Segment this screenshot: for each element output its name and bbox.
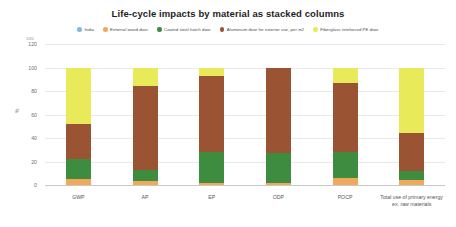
bar-segment[interactable] [333, 178, 358, 185]
legend-item[interactable]: India [77, 27, 94, 32]
x-tick-label: GWP [72, 194, 84, 201]
y-tick-label: 20 [31, 159, 37, 165]
bar-column[interactable] [199, 68, 224, 185]
bar-segment[interactable] [333, 68, 358, 83]
bar-segment[interactable] [133, 68, 158, 87]
legend-item[interactable]: Coated steel hatch door [157, 27, 211, 32]
legend-swatch-icon [103, 27, 108, 32]
legend-item[interactable]: External wood door [103, 27, 148, 32]
bar-segment[interactable] [66, 159, 91, 179]
bar-segment[interactable] [66, 68, 91, 124]
legend-swatch-icon [157, 27, 162, 32]
bar-segment[interactable] [133, 170, 158, 182]
legend-item[interactable]: Aluminium door for exterior use, per m2 [220, 27, 304, 32]
y-tick-label: 60 [31, 112, 37, 118]
bar-segment[interactable] [399, 68, 424, 134]
plot-area [45, 44, 445, 185]
x-axis-baseline [45, 185, 445, 186]
legend-swatch-icon [313, 27, 318, 32]
gridline [45, 68, 445, 69]
x-tick-label-line1: GWP [72, 194, 84, 200]
gridline [45, 138, 445, 139]
x-tick-label-line1: EP [208, 194, 215, 200]
y-axis-ticks: 020406080100120 [0, 44, 41, 185]
legend-label: India [84, 27, 94, 32]
y-tick-label: 0 [34, 182, 37, 188]
gridline [45, 44, 445, 45]
legend-label: Coated steel hatch door [164, 27, 211, 32]
bar-segment[interactable] [199, 76, 224, 152]
bar-column[interactable] [266, 68, 291, 185]
x-tick-label-line1: POCP [338, 194, 353, 200]
bar-segment[interactable] [399, 133, 424, 171]
x-tick-label-line1: ODP [273, 194, 284, 200]
x-tick-label: AP [142, 194, 149, 201]
x-tick-label: Total use of primary energyex. raw mater… [380, 194, 443, 207]
bar-column[interactable] [133, 68, 158, 185]
y-tick-label: 40 [31, 135, 37, 141]
bar-segment[interactable] [333, 152, 358, 178]
bar-segment[interactable] [266, 153, 291, 182]
y-tick-label: 100 [28, 65, 37, 71]
bar-segment[interactable] [199, 152, 224, 183]
bar-column[interactable] [399, 68, 424, 185]
chart-card: Life-cycle impacts by material as stacke… [0, 0, 456, 227]
x-tick-label-line2: ex. raw materials [380, 201, 443, 208]
y-tick-label: 80 [31, 88, 37, 94]
bar-segment[interactable] [133, 86, 158, 169]
bar-column[interactable] [333, 68, 358, 185]
bar-segment[interactable] [399, 171, 424, 180]
bar-segment[interactable] [333, 83, 358, 152]
x-tick-label: POCP [338, 194, 353, 201]
x-tick-label-line1: Total use of primary energy [380, 194, 443, 200]
x-tick-label: EP [208, 194, 215, 201]
gridline [45, 91, 445, 92]
gridline [45, 162, 445, 163]
legend-swatch-icon [220, 27, 225, 32]
x-axis-labels: GWPAPEPODPPOCPTotal use of primary energ… [45, 188, 445, 218]
legend-item[interactable]: Fiberglass reinforced PE door [313, 27, 378, 32]
bar-column[interactable] [66, 68, 91, 185]
bar-segment[interactable] [66, 124, 91, 159]
gridline [45, 115, 445, 116]
legend-label: Aluminium door for exterior use, per m2 [227, 27, 304, 32]
legend-swatch-icon [77, 27, 82, 32]
x-tick-label: ODP [273, 194, 284, 201]
legend-label: Fiberglass reinforced PE door [320, 27, 378, 32]
x-tick-label-line1: AP [142, 194, 149, 200]
chart-title: Life-cycle impacts by material as stacke… [0, 8, 456, 19]
bar-segment[interactable] [266, 68, 291, 154]
y-tick-label: 120 [28, 41, 37, 47]
legend-label: External wood door [110, 27, 148, 32]
chart-legend: IndiaExternal wood doorCoated steel hatc… [0, 27, 456, 32]
bar-segment[interactable] [199, 68, 224, 76]
